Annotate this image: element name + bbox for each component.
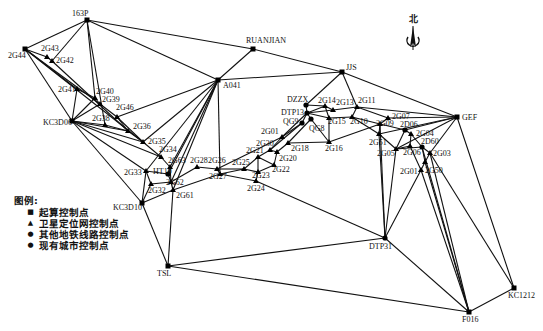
dot-marker-icon: ● <box>26 240 35 251</box>
control-point-label: 2G33 <box>124 168 142 177</box>
legend: 图例: ■ 起算控制点 ▲ 卫星定位网控制点 ● 其他地铁线路控制点 ● 现有城… <box>14 195 129 251</box>
control-point-label: 2G32 <box>148 186 166 195</box>
control-point-label: 2G01 <box>261 127 279 136</box>
legend-item-label: 卫星定位网控制点 <box>39 218 119 229</box>
control-point-label: JJS <box>346 63 357 72</box>
control-point-label: 2G43 <box>41 44 59 53</box>
control-point-label: 2G14 <box>318 96 336 105</box>
north-arrow: 北 <box>403 12 423 53</box>
legend-item-gnss-point: ▲ 卫星定位网控制点 <box>14 218 129 229</box>
control-point-label: KC3D06 <box>43 118 72 127</box>
network-edge <box>342 72 457 117</box>
control-point-label: KC1212 <box>508 291 535 300</box>
control-point-label: DTP13 <box>281 108 304 117</box>
control-point-label: 2G20 <box>279 154 297 163</box>
legend-item-starting-point: ■ 起算控制点 <box>14 207 129 218</box>
control-point-label: QG8 <box>309 124 325 133</box>
legend-title: 图例: <box>14 195 129 206</box>
network-edge <box>87 20 253 49</box>
compass-icon <box>403 25 423 51</box>
north-label: 北 <box>403 12 423 25</box>
network-edge <box>430 153 469 312</box>
network-edge <box>87 20 218 80</box>
control-point-circle-icon <box>382 235 387 240</box>
control-point-square-icon <box>340 70 345 75</box>
network-edge <box>218 72 342 80</box>
control-point-label: 2G34 <box>159 145 177 154</box>
control-point-label: 163P <box>72 9 89 18</box>
legend-item-metro-point: ● 其他地铁线路控制点 <box>14 229 129 240</box>
control-point-label: HT10 <box>153 167 172 176</box>
network-edge <box>142 203 168 266</box>
network-edge <box>385 149 396 238</box>
control-point-label: 2G51 <box>369 138 387 147</box>
control-point-label: 2G18 <box>291 144 309 153</box>
network-edge <box>333 107 357 110</box>
control-point-label: 2G11 <box>358 96 375 105</box>
network-edge <box>253 49 342 72</box>
control-point-label: TSL <box>157 269 171 278</box>
control-point-label: DZZX <box>287 95 309 104</box>
network-edge <box>306 105 325 106</box>
control-point-circle-icon <box>308 116 313 121</box>
control-point-label: QG9 <box>283 117 299 126</box>
control-point-label: 2G23 <box>252 171 270 180</box>
network-labels: 163P2G442G432G42RUANJIANJJSA0412G412G402… <box>8 9 535 324</box>
control-point-label: 2G13 <box>336 98 354 107</box>
network-edge <box>143 80 218 142</box>
control-point-label: 2G05 <box>377 149 395 158</box>
control-point-label: 2G42 <box>56 56 74 65</box>
control-point-label: 2D60 <box>421 137 439 146</box>
control-point-circle-icon <box>299 120 304 125</box>
control-point-label: 2G25 <box>232 158 250 167</box>
network-edge <box>168 190 173 266</box>
control-point-square-icon <box>85 18 90 23</box>
control-point-square-icon <box>467 310 472 315</box>
control-point-label: 2G50 <box>425 166 443 175</box>
control-point-triangle-icon <box>418 167 424 172</box>
control-point-label: 2G22 <box>272 165 290 174</box>
control-point-triangle-icon <box>422 159 428 164</box>
control-point-label: 2G27 <box>209 172 227 181</box>
legend-item-city-point: ● 现有城市控制点 <box>14 240 129 251</box>
control-point-label: 2G24 <box>247 184 265 193</box>
control-point-label: 2G63 <box>168 156 186 165</box>
control-point-square-icon <box>216 78 221 83</box>
control-point-label: 2D06 <box>400 120 418 129</box>
control-point-triangle-icon <box>408 131 414 136</box>
control-point-label: 2G44 <box>8 51 26 60</box>
control-point-label: 2G30 <box>256 139 274 148</box>
control-point-label: 2G28 <box>190 156 208 165</box>
network-edge <box>197 167 217 169</box>
control-network-diagram: 163P2G442G432G42RUANJIANJJSA0412G412G402… <box>0 0 543 331</box>
control-point-label: GEF <box>462 113 478 122</box>
control-point-circle-icon <box>304 110 309 115</box>
control-point-square-icon <box>455 115 460 120</box>
network-edge <box>256 181 385 238</box>
control-point-label: RUANJIAN <box>246 36 286 45</box>
control-point-label: F016 <box>462 315 478 324</box>
control-point-label: 2G16 <box>325 144 343 153</box>
network-edge <box>385 170 421 238</box>
network-edge <box>168 238 385 266</box>
legend-item-label: 起算控制点 <box>39 207 89 218</box>
triangle-marker-icon: ▲ <box>26 218 35 229</box>
control-point-label: DTP31 <box>369 242 392 251</box>
legend-item-label: 其他地铁线路控制点 <box>39 229 129 240</box>
control-point-square-icon <box>512 286 517 291</box>
control-point-label: 2G26 <box>208 156 226 165</box>
control-point-label: 2G01 <box>400 167 418 176</box>
control-point-label: 2G03 <box>433 149 451 158</box>
legend-item-label: 现有城市控制点 <box>39 240 109 251</box>
network-edge <box>457 117 514 288</box>
control-point-label: 2G10 <box>350 117 368 126</box>
control-point-label: 2G06 <box>403 148 421 157</box>
control-point-label: 2G41 <box>58 85 76 94</box>
control-point-square-icon <box>251 47 256 52</box>
control-point-square-icon <box>166 264 171 269</box>
circle-marker-icon: ● <box>26 229 35 240</box>
control-point-label: 2G46 <box>116 103 134 112</box>
control-point-label: 2G09 <box>376 119 394 128</box>
control-point-label: 2G15 <box>328 117 346 126</box>
control-point-label: 2G38 <box>92 114 110 123</box>
